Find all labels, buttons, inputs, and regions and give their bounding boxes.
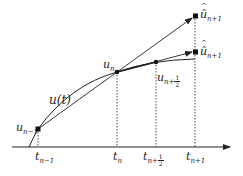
tick-t-n-half: tn+12 [143,151,164,167]
label-u-n-half: un+12 [157,72,180,88]
label-u-n: un [103,59,115,73]
tick-t-n: tn [113,151,122,165]
point-u-n-half [154,60,158,64]
tick-t-n-minus-1: tn−1 [35,151,54,165]
point-u-hat-top [193,14,198,19]
label-u-n-minus-1: un−1 [16,122,38,136]
point-u-hat-bottom [193,50,198,55]
tick-t-n-plus-1: tn+1 [186,151,205,165]
point-u-n [115,70,120,75]
label-u-hat-top: ûn+1 [200,9,222,23]
label-curve-u-t: u(t) [49,94,71,106]
label-u-hat-bottom: ûn+1 [200,46,222,60]
